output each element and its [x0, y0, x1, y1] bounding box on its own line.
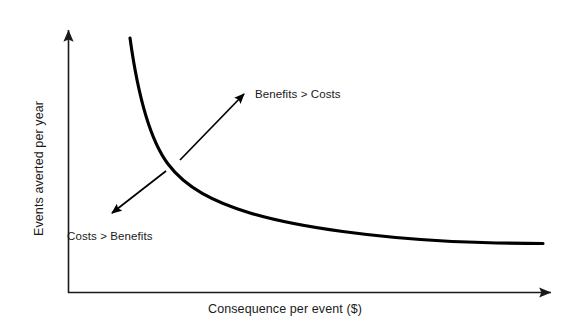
annotation-benefits-greater-than-costs: Benefits > Costs — [255, 88, 341, 100]
chart-figure: Events averted per year Consequence per … — [0, 0, 576, 326]
chart-canvas — [0, 0, 576, 326]
annotation-costs-greater-than-benefits: Costs > Benefits — [67, 230, 153, 242]
costs-arrow — [112, 171, 166, 213]
y-axis-label: Events averted per year — [32, 101, 46, 236]
benefits-arrow — [180, 94, 244, 160]
x-axis-label: Consequence per event ($) — [208, 302, 362, 316]
decay-curve — [130, 38, 543, 244]
